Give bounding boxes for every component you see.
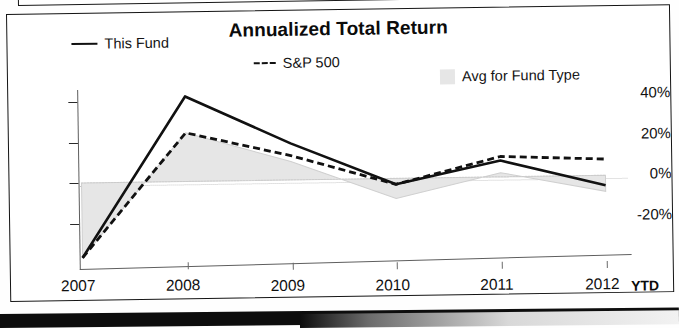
x-tick-label: 2008 <box>166 276 201 295</box>
x-tick-label: 2007 <box>61 277 96 296</box>
y-tick-mark <box>70 223 79 224</box>
chart-inner: Annualized Total Return This Fund S&P 50… <box>7 5 673 301</box>
legend-item-this-fund: This Fund <box>71 35 169 52</box>
dashed-line-icon <box>254 62 276 64</box>
series-canvas <box>78 84 628 264</box>
x-tick-label: 2011 <box>480 276 514 294</box>
x-tick-mark <box>397 262 398 269</box>
chart-panel: Annualized Total Return This Fund S&P 50… <box>6 4 674 302</box>
x-tick-mark <box>502 262 503 269</box>
x-axis-tick-labels: 200720082009201020112012 <box>7 5 669 15</box>
y-tick-mark <box>68 102 77 103</box>
legend-item-avg-for-fund-type: Avg for Fund Type <box>440 66 580 84</box>
area-swatch-icon <box>440 69 455 84</box>
x-tick-mark <box>292 262 293 269</box>
legend-label-this-fund: This Fund <box>104 35 169 52</box>
x-tick-label: 2012 <box>585 275 620 294</box>
series-area-avg-for-fund-type <box>81 127 607 258</box>
legend-label-avg-for-fund-type: Avg for Fund Type <box>462 66 580 84</box>
series-line-sp500 <box>81 127 607 258</box>
x-tick-mark <box>188 263 189 270</box>
legend-item-sp500: S&P 500 <box>254 54 340 71</box>
y-axis-tick-labels: 40%20%0%-20% <box>7 5 669 15</box>
x-tick-mark <box>607 262 608 269</box>
y-tick-mark <box>70 183 79 184</box>
x-tick-label: 2009 <box>271 276 306 295</box>
x-tick-label: 2010 <box>375 276 410 295</box>
scanned-page: Annualized Total Return This Fund S&P 50… <box>0 0 679 328</box>
plot-area <box>78 84 628 264</box>
scan-bottom-band-fade <box>300 310 679 328</box>
ytd-annotation: YTD <box>631 278 659 294</box>
solid-line-icon <box>71 43 97 45</box>
y-tick-mark <box>69 143 78 144</box>
legend-label-sp500: S&P 500 <box>283 54 340 71</box>
